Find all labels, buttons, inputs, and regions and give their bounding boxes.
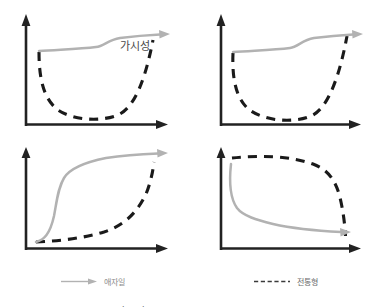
panel-business-value-plot	[8, 142, 191, 264]
figure-agile-vs-traditional: 가시성 적응성	[0, 0, 382, 307]
panel-risk-plot	[199, 142, 382, 264]
series-traditional-line	[232, 156, 346, 236]
panel-visibility-label: 가시성	[104, 40, 166, 53]
legend-item-agile: 애자일	[60, 274, 125, 288]
panel-risk: 리스크	[199, 142, 382, 264]
legend-agile-solid-arrow-icon	[60, 277, 98, 286]
panel-business-value: 비즈니스 가치	[8, 142, 191, 264]
x-axis	[26, 244, 168, 253]
y-axis	[217, 14, 226, 126]
series-agile-arrowhead	[157, 149, 168, 158]
panel-grid: 가시성 적응성	[0, 0, 382, 307]
panel-adaptability: 적응성	[199, 6, 382, 138]
legend-agile-label: 애자일	[104, 276, 125, 287]
x-axis	[221, 244, 361, 253]
y-axis	[217, 147, 226, 250]
series-agile-arrowhead	[352, 30, 363, 39]
series-agile-line	[36, 154, 158, 243]
legend-item-traditional: 전통형	[253, 274, 318, 288]
panel-visibility-plot	[8, 6, 191, 138]
series-traditional-line	[36, 162, 154, 242]
series-agile-line	[233, 35, 353, 53]
panel-adaptability-plot	[199, 6, 382, 138]
legend-traditional-dashed-icon	[253, 277, 291, 286]
panel-visibility: 가시성	[8, 6, 191, 138]
x-axis	[26, 120, 168, 129]
y-axis	[22, 147, 31, 250]
y-axis	[22, 14, 31, 126]
legend-traditional-label: 전통형	[297, 276, 318, 287]
chart-legend: 애자일 전통형	[0, 266, 382, 307]
series-agile-line	[230, 164, 341, 232]
series-agile-arrowhead	[159, 30, 170, 39]
